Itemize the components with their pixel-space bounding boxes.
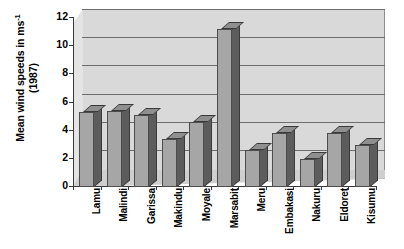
category-label: Marsabit — [229, 188, 240, 246]
bar-front-face — [107, 111, 122, 187]
x-axis-category-labels: LamuMalindiGarissaMakinduMoyaleMarsabitM… — [73, 190, 385, 248]
bar-top-face — [359, 138, 382, 145]
bar[interactable] — [79, 112, 94, 187]
bar-front-face — [134, 115, 149, 187]
bar-front-face — [300, 159, 315, 187]
y-tick-label: 12 — [46, 11, 68, 22]
y-axis-title-year: (1987) — [27, 63, 39, 93]
y-axis-title-text: Mean wind speeds in ms-1(1987) — [14, 14, 40, 141]
bar[interactable] — [300, 159, 315, 187]
bar-slot — [348, 10, 376, 187]
category-label: Lamu — [91, 188, 102, 246]
y-axis-title: Mean wind speeds in ms-1(1987) — [7, 0, 47, 163]
y-tick-label: 8 — [46, 67, 68, 78]
bar-front-face — [245, 150, 260, 187]
y-tick-label: 2 — [46, 152, 68, 163]
bar[interactable] — [327, 133, 342, 187]
bar[interactable] — [107, 111, 122, 187]
category-label: Eldoret — [339, 188, 350, 246]
bar-slot — [183, 10, 211, 187]
y-tick-label: 0 — [46, 180, 68, 191]
category-label: Makindu — [173, 188, 184, 246]
bar-slot — [128, 10, 156, 187]
bar[interactable] — [162, 139, 177, 187]
bar-front-face — [355, 145, 370, 187]
y-axis-title-main: Mean wind speeds in ms — [14, 21, 26, 142]
y-tick-label: 4 — [46, 124, 68, 135]
bar-front-face — [189, 122, 204, 187]
bar-slot — [321, 10, 349, 187]
category-label: Kisumu — [366, 188, 377, 246]
bar[interactable] — [355, 145, 370, 187]
bar-front-face — [162, 139, 177, 187]
bar-slot — [73, 10, 101, 187]
bar-front-face — [217, 29, 232, 187]
category-label: Embakasi — [284, 188, 295, 246]
bar[interactable] — [217, 29, 232, 187]
bar[interactable] — [245, 150, 260, 187]
bar-front-face — [79, 112, 94, 187]
bar-slot — [266, 10, 294, 187]
bar-slot — [293, 10, 321, 187]
bar-front-face — [327, 133, 342, 187]
bar-slot — [238, 10, 266, 187]
y-tick-label: 6 — [46, 96, 68, 107]
category-label: Garissa — [146, 188, 157, 246]
category-label: Meru — [256, 188, 267, 246]
bar-slot — [156, 10, 184, 187]
bar[interactable] — [134, 115, 149, 187]
category-label: Malindi — [118, 188, 129, 246]
y-axis-title-superscript: -1 — [12, 14, 21, 20]
bar[interactable] — [272, 133, 287, 187]
bar[interactable] — [189, 122, 204, 187]
bar-series — [73, 9, 385, 187]
y-tick-label: 10 — [46, 39, 68, 50]
category-label: Moyale — [201, 188, 212, 246]
wind-speed-bar-chart: Mean wind speeds in ms-1(1987) 024681012… — [0, 0, 404, 249]
bar-slot — [211, 10, 239, 187]
bar-front-face — [272, 133, 287, 187]
bar-slot — [101, 10, 129, 187]
bar-side-face — [370, 138, 378, 187]
category-label: Nakuru — [311, 188, 322, 246]
